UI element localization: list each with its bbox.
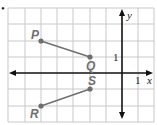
point-r [38, 103, 43, 108]
y-axis-up-arrow-icon [119, 9, 125, 16]
x-axis-left-arrow-icon [9, 70, 16, 76]
label-r: R [30, 107, 39, 121]
y-axis-down-arrow-icon [119, 112, 125, 119]
x-axis-label: x [146, 74, 152, 86]
label-s: S [88, 74, 96, 88]
bullet-marker: • [1, 2, 5, 14]
y-tick-label: 1 [113, 51, 119, 63]
y-axis-label: y [126, 9, 132, 21]
segment-pq [41, 41, 90, 57]
label-q: Q [86, 59, 96, 73]
y-axis [119, 9, 125, 119]
label-p: P [31, 28, 40, 42]
segment-rs [41, 89, 90, 106]
grid-lines [8, 8, 154, 122]
point-p [38, 38, 43, 43]
x-axis [9, 70, 153, 76]
x-tick-label: 1 [135, 74, 141, 86]
coordinate-plane: • y x 1 1 P Q S R [0, 0, 157, 125]
